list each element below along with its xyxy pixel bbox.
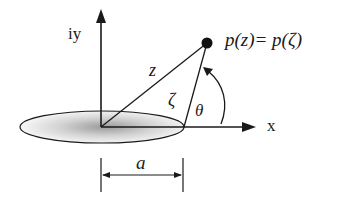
dimension-left-arrowhead-icon [102,172,110,178]
y-axis-arrowhead-icon [96,9,106,23]
complex-plane-diagram: iy x z ζ θ p(z)= p(ζ) a [0,0,343,201]
dimension-right-arrowhead-icon [174,172,182,178]
x-axis-arrowhead-icon [242,122,256,132]
x-axis-label: x [267,116,276,135]
z-label: z [148,60,156,80]
theta-label: θ [195,101,203,120]
theta-angle-arc [208,71,225,124]
point-p-dot [202,38,213,49]
point-equation-label: p(z)= p(ζ) [223,29,302,51]
zeta-label: ζ [168,90,177,110]
y-axis-label: iy [68,24,82,43]
dimension-a-label: a [136,152,146,173]
